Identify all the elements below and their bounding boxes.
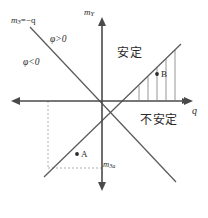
diagram-canvas — [0, 0, 208, 218]
m3a-tick-label-sub: 3a — [109, 163, 115, 169]
stable-region-label: 安定 — [117, 47, 142, 59]
stability-diagram: m3=−q mY q φ>0 φ<0 安定 不安定 A B m3a — [0, 0, 208, 218]
q-axis-arrow-right — [184, 97, 193, 105]
m3a-tick-label: m3a — [103, 160, 115, 169]
point-B-label: B — [161, 70, 167, 79]
point-A-label: A — [81, 150, 88, 159]
q-axis-label: q — [192, 106, 197, 116]
point-B-marker — [155, 72, 159, 76]
descending-line-label: m3=−q — [11, 16, 35, 26]
dashed-guides — [48, 101, 103, 168]
my-axis-arrow-top — [98, 17, 106, 26]
my-axis-label: mY — [84, 8, 94, 18]
point-A-marker — [75, 152, 79, 156]
my-axis-arrow-bottom — [98, 182, 106, 191]
phi-positive-label: φ>0 — [50, 35, 66, 45]
unstable-region-label: 不安定 — [140, 114, 178, 126]
my-axis-label-sub: Y — [91, 10, 95, 17]
descending-line-label-tail: =−q — [21, 15, 36, 25]
q-axis-arrow-left — [11, 97, 20, 105]
phi-negative-label: φ<0 — [23, 58, 39, 68]
